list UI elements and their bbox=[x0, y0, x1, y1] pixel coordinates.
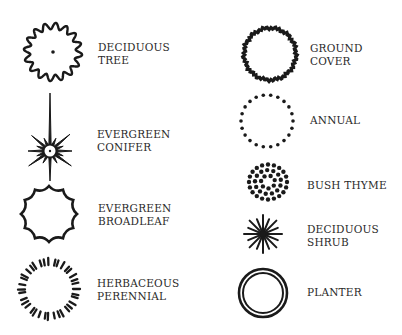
evergreen-conifer-icon bbox=[20, 92, 80, 182]
label-line: TREE bbox=[98, 54, 170, 67]
label-line: EVERGREEN bbox=[98, 202, 171, 215]
deciduous-shrub-icon bbox=[242, 213, 284, 255]
herbaceous-perennial-icon bbox=[16, 256, 82, 322]
label-line: HERBACEOUS bbox=[97, 277, 179, 290]
label-herbaceous-perennial: HERBACEOUS PERENNIAL bbox=[97, 277, 179, 303]
label-line: CONIFER bbox=[97, 141, 170, 154]
ground-cover-icon bbox=[240, 24, 300, 84]
label-line: DECIDUOUS bbox=[98, 41, 170, 54]
label-line: BROADLEAF bbox=[98, 215, 171, 228]
label-planter: PLANTER bbox=[307, 286, 362, 299]
deciduous-tree-icon bbox=[18, 18, 88, 88]
label-line: ANNUAL bbox=[310, 114, 360, 127]
label-evergreen-conifer: EVERGREEN CONIFER bbox=[97, 128, 170, 154]
label-line: PLANTER bbox=[307, 286, 362, 299]
label-evergreen-broadleaf: EVERGREEN BROADLEAF bbox=[98, 202, 171, 228]
evergreen-broadleaf-icon bbox=[16, 182, 82, 246]
label-line: BUSH THYME bbox=[307, 179, 387, 192]
annual-icon bbox=[237, 91, 297, 151]
label-line: COVER bbox=[310, 55, 363, 68]
label-line: PERENNIAL bbox=[97, 290, 179, 303]
label-deciduous-shrub: DECIDUOUS SHRUB bbox=[307, 223, 379, 249]
bush-thyme-icon bbox=[244, 160, 292, 204]
label-annual: ANNUAL bbox=[310, 114, 360, 127]
label-line: SHRUB bbox=[307, 236, 379, 249]
label-line: DECIDUOUS bbox=[307, 223, 379, 236]
label-line: GROUND bbox=[310, 42, 363, 55]
planter-icon bbox=[236, 266, 290, 320]
label-deciduous-tree: DECIDUOUS TREE bbox=[98, 41, 170, 67]
label-line: EVERGREEN bbox=[97, 128, 170, 141]
label-ground-cover: GROUND COVER bbox=[310, 42, 363, 68]
label-bush-thyme: BUSH THYME bbox=[307, 179, 387, 192]
